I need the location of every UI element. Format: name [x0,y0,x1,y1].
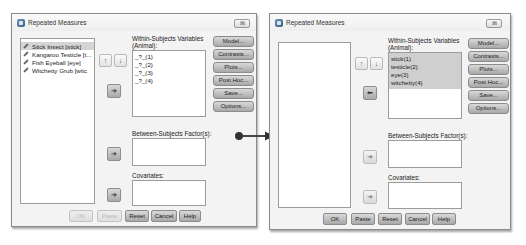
help-button[interactable]: Help [179,210,201,222]
arrow-left-icon: ⬅ [367,89,373,97]
close-button[interactable]: ⊠ [486,19,502,28]
move-down-button[interactable]: ↓ [114,54,127,67]
within-subjects-slot[interactable]: stick(1) [389,55,461,63]
dialog-title: Repeated Measures [28,19,87,26]
within-subjects-variables-list[interactable]: stick(1) testicle(2) eye(3) witchetty(4) [388,52,462,119]
arrow-down-icon: ↓ [375,60,379,67]
dialog-title: Repeated Measures [286,19,345,26]
repeated-measures-dialog-before: Repeated Measures ⊠ Stick Insect [stick]… [11,13,257,227]
close-button[interactable]: ⊠ [234,19,250,28]
arrow-right-icon: ➔ [111,87,117,95]
move-to-within-button[interactable]: ➔ [107,84,121,98]
variable-item[interactable]: Fish Eyeball [eye] [21,58,94,66]
spss-dialog-icon [17,19,25,27]
save-button[interactable]: Save... [468,90,509,101]
options-button[interactable]: Options... [213,101,254,112]
post-hoc-button[interactable]: Post Hoc... [468,77,509,88]
within-subjects-slot[interactable]: _?_(2) [133,61,205,69]
between-subjects-list[interactable] [132,138,206,166]
transition-arrow-icon [234,130,274,142]
move-to-between-button[interactable]: ➔ [107,147,121,161]
within-subjects-variables-list[interactable]: _?_(1) _?_(2) _?_(3) _?_(4) [132,50,206,117]
between-subjects-list[interactable] [388,140,462,168]
scale-variable-icon [23,59,29,65]
move-down-button[interactable]: ↓ [370,57,383,70]
arrow-right-icon: ➔ [111,191,117,199]
arrow-right-icon: ➔ [367,193,373,201]
title-bar: Repeated Measures [270,14,510,31]
move-up-button[interactable]: ↑ [99,54,112,67]
variable-item[interactable]: Kangaroo Testicle [t... [21,50,94,58]
model-button[interactable]: Model... [468,38,509,49]
cancel-button[interactable]: Cancel [405,213,430,225]
move-back-button[interactable]: ⬅ [363,86,377,100]
arrow-up-icon: ↑ [104,57,108,64]
source-variable-list[interactable] [278,42,351,208]
spss-dialog-icon [275,19,283,27]
reset-button[interactable]: Reset [125,210,149,222]
model-button[interactable]: Model... [213,36,254,47]
title-bar: Repeated Measures [12,14,256,31]
repeated-measures-dialog-after: Repeated Measures ⊠ ↑ ↓ ⬅ Within-Subject… [269,13,511,230]
ok-button[interactable]: OK [69,210,93,222]
arrow-right-icon: ➔ [111,150,117,158]
scale-variable-icon [23,51,29,57]
move-up-button[interactable]: ↑ [355,57,368,70]
source-variable-list[interactable]: Stick Insect [stick] Kangaroo Testicle [… [20,38,95,204]
within-subjects-slot[interactable]: witchetty(4) [389,79,461,87]
plots-button[interactable]: Plots... [213,62,254,73]
move-to-covariates-button[interactable]: ➔ [363,190,377,204]
move-to-covariates-button[interactable]: ➔ [107,188,121,202]
within-subjects-slot[interactable]: _?_(4) [133,77,205,85]
post-hoc-button[interactable]: Post Hoc... [213,75,254,86]
arrow-down-icon: ↓ [119,57,123,64]
scale-variable-icon [23,67,29,73]
paste-button[interactable]: Paste [97,210,122,222]
paste-button[interactable]: Paste [351,213,375,225]
arrow-up-icon: ↑ [360,60,364,67]
within-subjects-factor-label: (Animal): [388,44,413,51]
within-subjects-selection: stick(1) testicle(2) eye(3) witchetty(4) [389,53,461,89]
within-subjects-factor-label: (Animal): [132,42,157,49]
move-to-between-button[interactable]: ➔ [363,150,377,164]
arrow-right-icon: ➔ [367,153,373,161]
help-button[interactable]: Help [432,213,456,225]
within-subjects-label: Within-Subjects Variables [132,35,203,42]
plots-button[interactable]: Plots... [468,64,509,75]
within-subjects-slot[interactable]: testicle(2) [389,63,461,71]
covariates-label: Covariates: [132,172,164,179]
within-subjects-label: Within-Subjects Variables [388,37,459,44]
covariates-list[interactable] [132,180,206,206]
within-subjects-slot[interactable]: _?_(1) [133,53,205,61]
options-button[interactable]: Options... [468,103,509,114]
variable-item[interactable]: Witchetty Grub [witc [21,66,94,74]
between-subjects-label: Between-Subjects Factor(s): [132,130,211,137]
within-subjects-slot[interactable]: _?_(3) [133,69,205,77]
contrasts-button[interactable]: Contrasts... [468,51,509,62]
between-subjects-label: Between-Subjects Factor(s): [388,132,467,139]
cancel-button[interactable]: Cancel [151,210,177,222]
contrasts-button[interactable]: Contrasts... [213,49,254,60]
reset-button[interactable]: Reset [378,213,402,225]
within-subjects-slot[interactable]: eye(3) [389,71,461,79]
covariates-list[interactable] [388,182,462,209]
save-button[interactable]: Save... [213,88,254,99]
scale-variable-icon [23,43,29,49]
variable-item[interactable]: Stick Insect [stick] [21,42,94,50]
ok-button[interactable]: OK [323,213,347,225]
covariates-label: Covariates: [388,174,420,181]
